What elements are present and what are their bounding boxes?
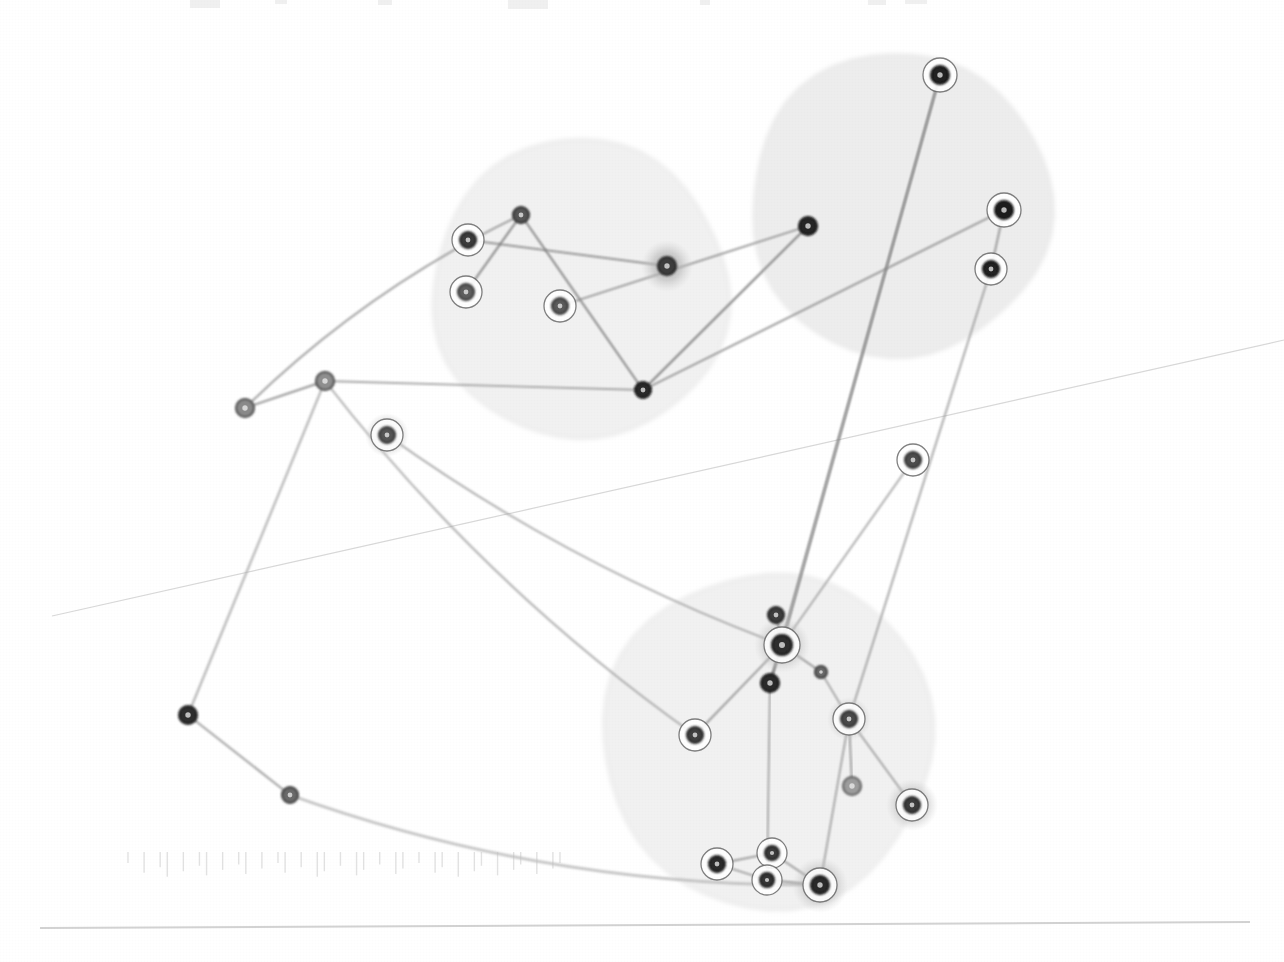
graph-node[interactable] [987,193,1021,227]
node-highlight [765,878,769,882]
graph-node[interactable] [768,607,784,623]
node-highlight [779,642,785,648]
node-highlight [288,793,293,798]
graph-node[interactable] [803,868,837,902]
graph-node[interactable] [764,627,800,663]
graph-edge [188,715,290,795]
graph-node[interactable] [236,399,254,417]
node-highlight [819,670,823,674]
node-highlight [805,223,810,228]
node-highlight [185,712,190,717]
graph-node[interactable] [452,224,484,256]
node-highlight [910,803,915,808]
cluster-blobs-layer [416,44,1064,910]
node-highlight [817,882,822,887]
top-smudge-artifact [190,0,927,9]
figure-canvas [0,0,1284,962]
graph-node[interactable] [701,848,733,880]
node-highlight [847,717,852,722]
graph-node[interactable] [450,276,482,308]
node-highlight [937,72,942,77]
graph-node[interactable] [282,787,298,803]
node-highlight [715,862,720,867]
node-highlight [466,238,471,243]
node-highlight [242,405,247,410]
graph-node[interactable] [513,207,529,223]
graph-node[interactable] [371,419,403,451]
page-baseline-artifact [40,922,1250,928]
graph-node[interactable] [833,703,865,735]
node-highlight [664,263,669,268]
graph-edge [245,381,325,408]
node-highlight [1001,207,1006,212]
graph-node[interactable] [975,253,1007,285]
graph-node[interactable] [752,865,782,895]
graph-edge [188,381,325,715]
node-highlight [849,783,854,788]
node-highlight [519,213,524,218]
node-highlight [641,388,646,393]
node-highlight [693,733,698,738]
graph-node[interactable] [799,217,817,235]
node-highlight [770,851,774,855]
graph-node[interactable] [923,58,957,92]
node-highlight [767,680,772,685]
node-highlight [911,458,916,463]
graph-node[interactable] [896,789,928,821]
graph-node[interactable] [544,290,576,322]
graph-node[interactable] [815,666,827,678]
graph-node[interactable] [658,257,676,275]
graph-node[interactable] [897,444,929,476]
graph-node[interactable] [761,674,779,692]
node-highlight [385,433,390,438]
graph-node[interactable] [179,706,197,724]
tick-marks-artifact [128,852,560,877]
graph-node[interactable] [679,719,711,751]
node-highlight [464,290,469,295]
node-highlight [774,613,779,618]
graph-node[interactable] [843,777,861,795]
graph-node[interactable] [635,382,651,398]
network-graph-svg [0,0,1284,962]
graph-node[interactable] [757,838,787,868]
graph-node[interactable] [316,372,334,390]
node-highlight [558,304,563,309]
node-highlight [989,267,994,272]
node-highlight [322,378,327,383]
